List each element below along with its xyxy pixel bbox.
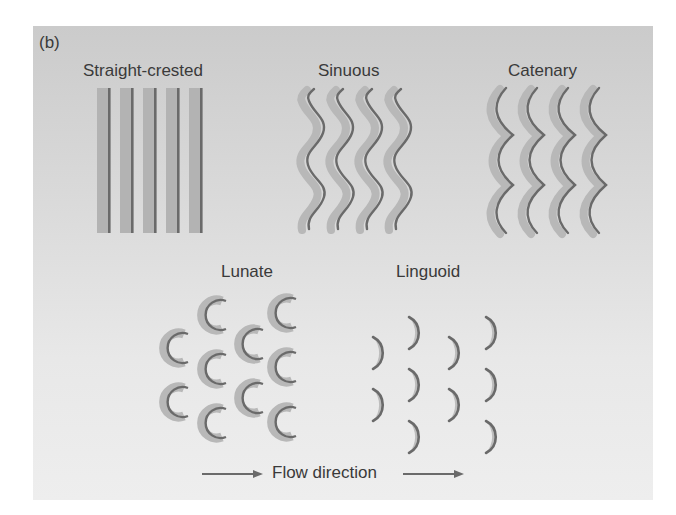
lunate-pattern <box>164 298 296 438</box>
flow-arrow-left <box>202 470 263 478</box>
catenary-pattern <box>491 88 606 234</box>
straight-crested-pattern <box>97 88 203 233</box>
linguoid-pattern <box>373 317 496 453</box>
sinuous-pattern <box>300 89 411 230</box>
flow-arrow-right <box>403 470 464 478</box>
bedform-diagram <box>0 0 676 515</box>
